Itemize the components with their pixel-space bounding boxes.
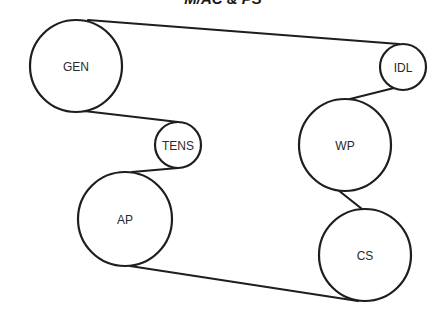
pulley-idl: IDL: [380, 44, 426, 90]
pulley-ap-label: AP: [117, 213, 133, 227]
pulley-tens: TENS: [155, 122, 201, 168]
pulley-wp-label: WP: [335, 139, 354, 153]
pulley-ap: AP: [78, 172, 172, 266]
pulley-gen: GEN: [30, 20, 122, 112]
pulley-cs-label: CS: [357, 249, 374, 263]
pulley-gen-label: GEN: [63, 60, 89, 74]
pulley-cs: CS: [319, 209, 411, 301]
pulley-idl-label: IDL: [394, 61, 413, 75]
belt-segment-wp-cs: [338, 190, 362, 209]
pulley-tens-label: TENS: [162, 139, 194, 153]
pulley-wp: WP: [299, 99, 391, 191]
belt-routing-diagram: GEN IDL TENS WP AP CS: [0, 0, 446, 316]
belt-segment-gen-idl: [88, 20, 399, 44]
belt-segment-tens-gen: [84, 111, 178, 122]
belt-segment-idl-wp: [350, 88, 394, 99]
belt-segment-ap-tens: [132, 168, 178, 172]
